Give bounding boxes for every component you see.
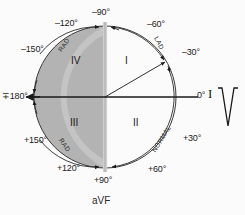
lead-one-label: I [208, 87, 212, 100]
angle-plus-30: +30° [183, 134, 201, 143]
quadrant-two: II [133, 118, 139, 128]
qrs-complex-waveform [218, 88, 238, 126]
angle-plus-150: +150° [24, 136, 47, 145]
angle-plus-60: +60° [148, 165, 166, 174]
angle-minus-120: –120° [55, 19, 78, 28]
minus-30-degree-line [105, 62, 165, 97]
angle-minus-30: –30° [182, 48, 200, 57]
quadrant-four: IV [71, 56, 80, 66]
diagram-canvas: –90° –120° –150° ∓180° +150° +120° +90° … [0, 0, 245, 215]
angle-minus-60: –60° [147, 20, 165, 29]
angle-plus-minus-180: ∓180° [2, 92, 28, 101]
angle-minus-90: –90° [92, 8, 110, 17]
angle-plus-120: +120° [57, 164, 80, 173]
angle-zero: 0° [197, 91, 205, 100]
hexaxial-diagram-svg [0, 0, 245, 215]
quadrant-one: I [125, 56, 128, 66]
angle-plus-90: +90° [94, 176, 112, 185]
angle-minus-150: –150° [21, 45, 44, 54]
arc-arrow-normal [112, 70, 174, 167]
quadrant-three: III [70, 118, 78, 128]
avf-axis-label: aVF [92, 196, 110, 206]
